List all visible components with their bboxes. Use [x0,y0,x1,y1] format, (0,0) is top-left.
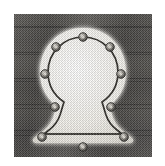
rivet [38,133,47,142]
plate-body [33,28,134,143]
rivet [79,33,88,42]
photograph [14,14,152,157]
rivet [117,70,126,79]
figure-root: Light metal keyhole-shaped escutcheon pl… [0,0,165,166]
rivet [107,103,116,112]
rivet [52,43,61,52]
rivet [106,43,115,52]
rivet [79,143,88,152]
rivet [120,133,129,142]
figure-alt-text: Light metal keyhole-shaped escutcheon pl… [0,0,1,1]
rivet [41,70,50,79]
escutcheon-plate [14,14,152,157]
rivet [51,103,60,112]
